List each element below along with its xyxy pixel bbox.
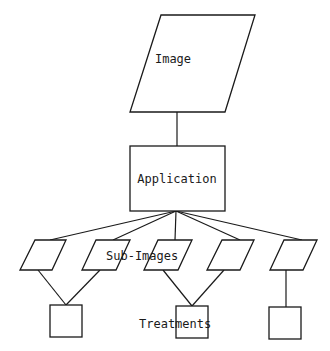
hierarchy-diagram: Image Application Sub-Images Treatments bbox=[0, 0, 330, 351]
edge-application-subimage-4 bbox=[176, 211, 240, 240]
edge-subimage-1-treatment-1 bbox=[38, 270, 66, 305]
application-label: Application bbox=[137, 172, 216, 186]
sub-images-label: Sub-Images bbox=[106, 249, 178, 263]
edge-application-subimage-3 bbox=[175, 211, 176, 240]
sub-image-node-1 bbox=[20, 240, 66, 270]
sub-image-node-4 bbox=[207, 240, 254, 270]
treatments-label: Treatments bbox=[139, 317, 211, 331]
treatment-node-1 bbox=[50, 305, 82, 337]
edge-application-subimage-2 bbox=[113, 211, 176, 240]
edge-application-subimage-5 bbox=[176, 211, 302, 240]
edge-application-subimage-1 bbox=[50, 211, 176, 240]
image-label: Image bbox=[155, 52, 191, 66]
edge-subimage-2-treatment-1 bbox=[66, 270, 100, 305]
edge-subimage-3-treatment-2 bbox=[163, 270, 192, 306]
sub-image-node-5 bbox=[270, 240, 317, 270]
image-node bbox=[130, 15, 255, 112]
treatment-node-3 bbox=[269, 307, 301, 339]
edge-subimage-4-treatment-2 bbox=[192, 270, 224, 306]
